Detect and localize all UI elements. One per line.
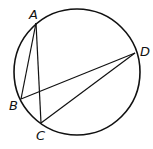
circle-diagram: A B C D <box>0 0 153 149</box>
segment-AC <box>36 23 41 123</box>
point-label-c: C <box>36 128 46 143</box>
point-label-a: A <box>28 7 38 22</box>
segment-AB <box>21 23 36 99</box>
segment-CD <box>41 53 135 123</box>
point-label-d: D <box>140 44 150 59</box>
circle <box>14 9 140 135</box>
point-label-b: B <box>9 98 18 113</box>
